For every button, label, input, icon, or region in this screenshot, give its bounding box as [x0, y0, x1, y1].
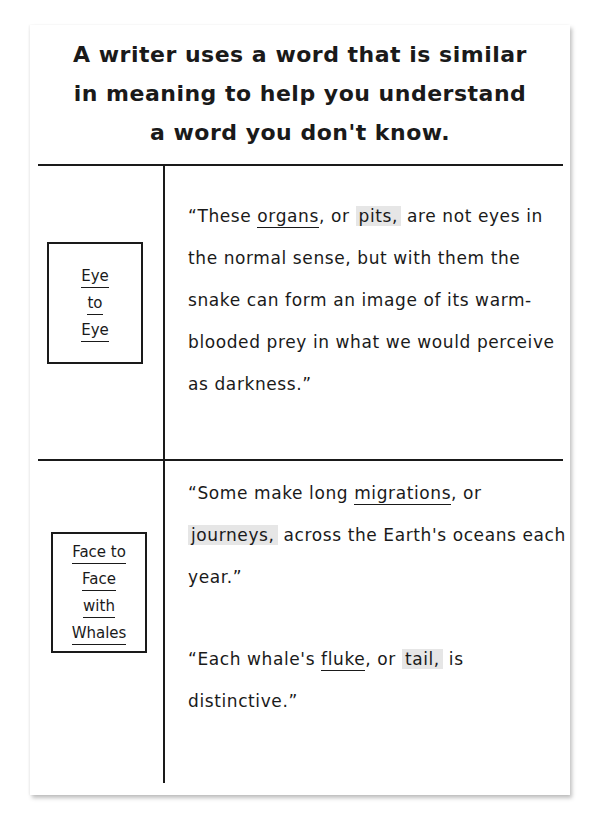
unknown-word: organs	[257, 206, 319, 228]
synonym-highlight: journeys,	[188, 525, 278, 545]
passage-text: , or	[319, 206, 356, 226]
book-title-line: Face	[82, 568, 116, 591]
title-line-1: A writer uses a word that is similar	[30, 35, 570, 74]
passage-text: are not eyes in the normal sense, but wi…	[188, 206, 555, 394]
anchor-chart-card: A writer uses a word that is similar in …	[30, 25, 570, 795]
row-divider	[38, 459, 563, 461]
passage-text: “These	[188, 206, 257, 226]
book-title-box-face-to-face-with-whales: Face to Face with Whales	[51, 532, 147, 653]
passage-whales-migrations: “Some make long migrations, or journeys,…	[188, 472, 568, 598]
book-title-line: Eye	[81, 319, 109, 342]
synonym-highlight: pits,	[356, 206, 401, 226]
book-title-line: Whales	[72, 622, 127, 645]
book-title-line: to	[87, 292, 102, 315]
title-divider	[38, 164, 563, 166]
passage-text: “Some make long	[188, 483, 354, 503]
book-title-box-eye-to-eye: Eye to Eye	[47, 242, 143, 364]
passage-text: , or	[365, 649, 402, 669]
unknown-word: migrations	[354, 483, 451, 505]
book-title-line: Face to	[72, 541, 126, 564]
passage-eye-to-eye: “These organs, or pits, are not eyes in …	[188, 195, 568, 405]
passage-text: , or	[451, 483, 482, 503]
unknown-word: fluke	[321, 649, 365, 671]
book-title-line: Eye	[81, 265, 109, 288]
column-divider	[163, 165, 165, 783]
book-title-line: with	[83, 595, 115, 618]
title-line-2: in meaning to help you understand	[30, 74, 570, 113]
title-line-3: a word you don't know.	[30, 113, 570, 152]
chart-title: A writer uses a word that is similar in …	[30, 35, 570, 152]
synonym-highlight: tail,	[402, 649, 443, 669]
passage-text: “Each whale's	[188, 649, 321, 669]
passage-whales-fluke: “Each whale's fluke, or tail, is distinc…	[188, 638, 568, 722]
